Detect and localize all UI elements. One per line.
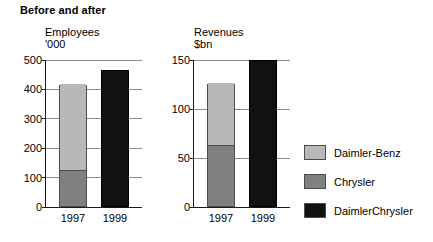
tick-mark-employees-0 <box>42 207 46 208</box>
x-axis-label-employees-1999: 1999 <box>95 212 135 224</box>
tick-mark-employees-200 <box>42 148 46 149</box>
panel-title-revenues-units: $bn <box>194 38 244 50</box>
y-tick-label-employees-400: 400 <box>24 84 42 95</box>
chart-legend: Daimler-BenzChryslerDaimlerChrysler <box>304 138 432 225</box>
tick-mark-employees-400 <box>42 89 46 90</box>
panel-title-revenues-main: Revenues <box>194 26 244 38</box>
y-tick-label-employees-100: 100 <box>24 173 42 184</box>
y-tick-label-employees-200: 200 <box>24 143 42 154</box>
bar-revenues-1999[interactable] <box>249 60 277 207</box>
y-tick-label-revenues-0: 0 <box>184 202 190 213</box>
tick-mark-revenues-0 <box>190 207 194 208</box>
tick-mark-revenues-100 <box>190 109 194 110</box>
plot-area-revenues: 05010015019971999 <box>193 60 290 208</box>
chart-figure: Before and after Employees '000 01002003… <box>0 0 433 242</box>
legend-swatch-daimlerchrysler <box>304 203 326 218</box>
tick-mark-employees-500 <box>42 60 46 61</box>
bar-segment-employees-1997-chrysler[interactable] <box>60 170 86 206</box>
legend-swatch-chrysler <box>304 174 326 189</box>
y-tick-label-revenues-50: 50 <box>178 153 190 164</box>
tick-mark-employees-300 <box>42 118 46 119</box>
y-tick-label-employees-300: 300 <box>24 114 42 125</box>
panel-title-employees-units: '000 <box>45 38 99 50</box>
y-tick-label-revenues-100: 100 <box>172 104 190 115</box>
bar-employees-1999[interactable] <box>101 70 129 207</box>
tick-mark-revenues-150 <box>190 60 194 61</box>
legend-swatch-daimler-benz <box>304 145 326 160</box>
bar-segment-employees-1997-daimler-benz[interactable] <box>60 84 86 170</box>
legend-item-daimler-benz[interactable]: Daimler-Benz <box>304 138 432 167</box>
bar-segment-revenues-1997-daimler-benz[interactable] <box>208 83 234 146</box>
x-axis-label-revenues-1997: 1997 <box>201 212 241 224</box>
legend-item-chrysler[interactable]: Chrysler <box>304 167 432 196</box>
plot-area-employees: 010020030040050019971999 <box>45 60 142 208</box>
x-axis-label-revenues-1999: 1999 <box>243 212 283 224</box>
y-tick-label-employees-500: 500 <box>24 55 42 66</box>
x-axis-label-employees-1997: 1997 <box>53 212 93 224</box>
bar-segment-revenues-1997-chrysler[interactable] <box>208 145 234 206</box>
chart-panel-revenues: Revenues $bn 05010015019971999 <box>150 0 300 242</box>
y-tick-label-employees-0: 0 <box>36 202 42 213</box>
panel-title-employees: Employees '000 <box>45 26 99 50</box>
bar-revenues-1997[interactable] <box>207 84 235 207</box>
gridline-employees-500 <box>46 60 142 61</box>
legend-label-daimlerchrysler: DaimlerChrysler <box>334 205 413 217</box>
panel-title-employees-main: Employees <box>45 26 99 38</box>
legend-item-daimlerchrysler[interactable]: DaimlerChrysler <box>304 196 432 225</box>
tick-mark-revenues-50 <box>190 158 194 159</box>
y-tick-label-revenues-150: 150 <box>172 55 190 66</box>
panel-title-revenues: Revenues $bn <box>194 26 244 50</box>
legend-label-daimler-benz: Daimler-Benz <box>334 147 401 159</box>
legend-label-chrysler: Chrysler <box>334 176 375 188</box>
tick-mark-employees-100 <box>42 177 46 178</box>
bar-employees-1997[interactable] <box>59 85 87 207</box>
chart-panel-employees: Employees '000 010020030040050019971999 <box>0 0 160 242</box>
